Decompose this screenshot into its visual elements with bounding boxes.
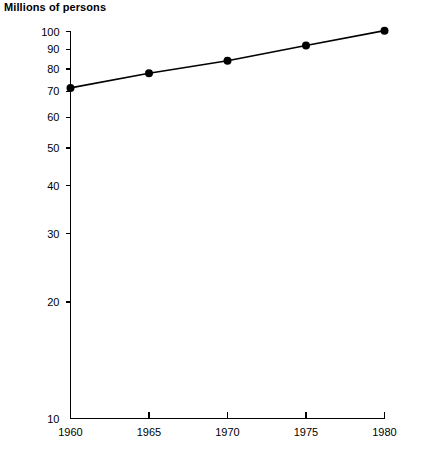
y-tick-label: 40	[47, 180, 59, 192]
y-tick-label: 100	[41, 26, 59, 38]
data-point-1970	[224, 57, 232, 65]
data-point-1980	[381, 27, 389, 35]
x-axis-tick-marks	[149, 412, 385, 419]
chart-container: Millions of persons 10203040506070809010…	[0, 0, 423, 473]
y-tick-label: 90	[47, 43, 59, 55]
x-tick-label: 1965	[137, 426, 161, 438]
y-tick-label: 10	[47, 413, 59, 425]
x-tick-label: 1980	[372, 426, 396, 438]
x-axis-tick-labels: 19601965197019751980	[58, 426, 396, 438]
x-tick-label: 1960	[58, 426, 82, 438]
series-data-points	[67, 27, 389, 92]
y-axis-tick-marks	[66, 32, 71, 303]
y-axis-tick-labels: 102030405060708090100	[41, 26, 59, 425]
y-tick-label: 60	[47, 111, 59, 123]
y-tick-label: 30	[47, 228, 59, 240]
data-point-1965	[145, 69, 153, 77]
x-tick-label: 1975	[294, 426, 318, 438]
chart-plot-area: 102030405060708090100 196019651970197519…	[0, 0, 423, 473]
y-tick-label: 80	[47, 63, 59, 75]
y-tick-label: 20	[47, 296, 59, 308]
data-point-1960	[67, 84, 75, 92]
y-tick-label: 70	[47, 85, 59, 97]
x-tick-label: 1970	[215, 426, 239, 438]
y-tick-label: 50	[47, 142, 59, 154]
data-point-1975	[302, 42, 310, 50]
